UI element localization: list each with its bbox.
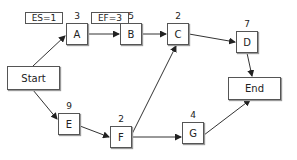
node-b: B bbox=[120, 23, 142, 45]
duration-d: 7 bbox=[236, 19, 258, 29]
node-c: C bbox=[167, 23, 189, 45]
node-e: E bbox=[58, 113, 80, 135]
node-a: A bbox=[66, 23, 88, 45]
es-annotation: ES=1 bbox=[25, 12, 63, 24]
node-g: G bbox=[182, 122, 204, 144]
duration-e: 9 bbox=[58, 101, 80, 111]
node-end: End bbox=[228, 77, 281, 100]
edge-e-f bbox=[80, 126, 109, 137]
edge-start-e bbox=[33, 90, 57, 119]
duration-f: 2 bbox=[110, 114, 132, 124]
node-f: F bbox=[110, 126, 132, 148]
duration-b: 5 bbox=[120, 11, 142, 21]
edge-f-c bbox=[132, 46, 176, 134]
duration-g: 4 bbox=[182, 110, 204, 120]
node-start: Start bbox=[7, 66, 60, 90]
edge-c-d bbox=[189, 34, 235, 42]
node-d: D bbox=[236, 31, 258, 53]
duration-c: 2 bbox=[167, 11, 189, 21]
edge-g-end bbox=[204, 100, 250, 135]
edge-d-end bbox=[247, 53, 252, 76]
edge-start-a bbox=[33, 36, 65, 66]
duration-a: 3 bbox=[66, 11, 88, 21]
